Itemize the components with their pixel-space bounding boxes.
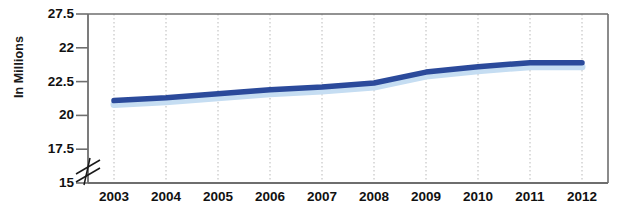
x-tick-label: 2003 — [84, 190, 144, 204]
x-tick-label: 2008 — [344, 190, 404, 204]
y-axis-ticks — [76, 14, 88, 183]
line-chart: In Millions 27.5 22 22.5 20 17.5 15 2003… — [0, 0, 625, 218]
x-tick-label: 2004 — [136, 190, 196, 204]
x-tick-label: 2010 — [448, 190, 508, 204]
x-tick-label: 2009 — [396, 190, 456, 204]
x-tick-label: 2006 — [240, 190, 300, 204]
plot-area — [0, 0, 625, 218]
x-tick-label: 2007 — [292, 190, 352, 204]
x-axis-tick-labels: 2003200420052006200720082009201020112012 — [0, 190, 625, 214]
x-tick-label: 2011 — [500, 190, 560, 204]
x-tick-label: 2005 — [188, 190, 248, 204]
x-tick-label: 2012 — [552, 190, 612, 204]
